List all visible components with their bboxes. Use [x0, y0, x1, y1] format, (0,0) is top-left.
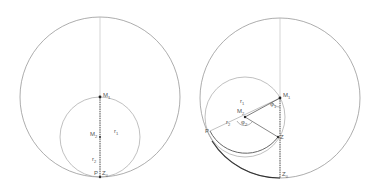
svg-text:M2: M2 — [237, 108, 245, 116]
z-point — [277, 136, 279, 138]
p-point — [99, 176, 101, 178]
hypocycloid-diagram: M1 M2 r1 r2 P Z0 M1 M2 r1 r2 φ1 φ2 P Z — [0, 0, 374, 189]
svg-text:P: P — [205, 128, 209, 134]
svg-text:φ1: φ1 — [270, 101, 277, 109]
svg-text:Z: Z — [280, 134, 284, 140]
svg-text:P: P — [94, 170, 98, 176]
m1-point — [99, 96, 102, 99]
svg-text:r1: r1 — [114, 128, 119, 136]
svg-text:Z0: Z0 — [282, 171, 289, 179]
m2-point — [244, 116, 246, 118]
svg-text:M2: M2 — [90, 131, 98, 139]
m1-point — [279, 97, 282, 100]
m2-point — [99, 136, 101, 138]
rolled-arc-outer — [212, 141, 280, 178]
svg-text:M1: M1 — [103, 92, 111, 100]
svg-text:Z0: Z0 — [102, 170, 109, 178]
svg-text:M1: M1 — [283, 92, 291, 100]
svg-text:r2: r2 — [92, 156, 97, 164]
left-figure: M1 M2 r1 r2 P Z0 — [20, 17, 180, 178]
right-figure: M1 M2 r1 r2 φ1 φ2 P Z Z0 — [200, 18, 360, 179]
m2-z-line — [245, 117, 278, 137]
svg-text:r2: r2 — [226, 119, 231, 127]
svg-text:r1: r1 — [240, 98, 245, 106]
